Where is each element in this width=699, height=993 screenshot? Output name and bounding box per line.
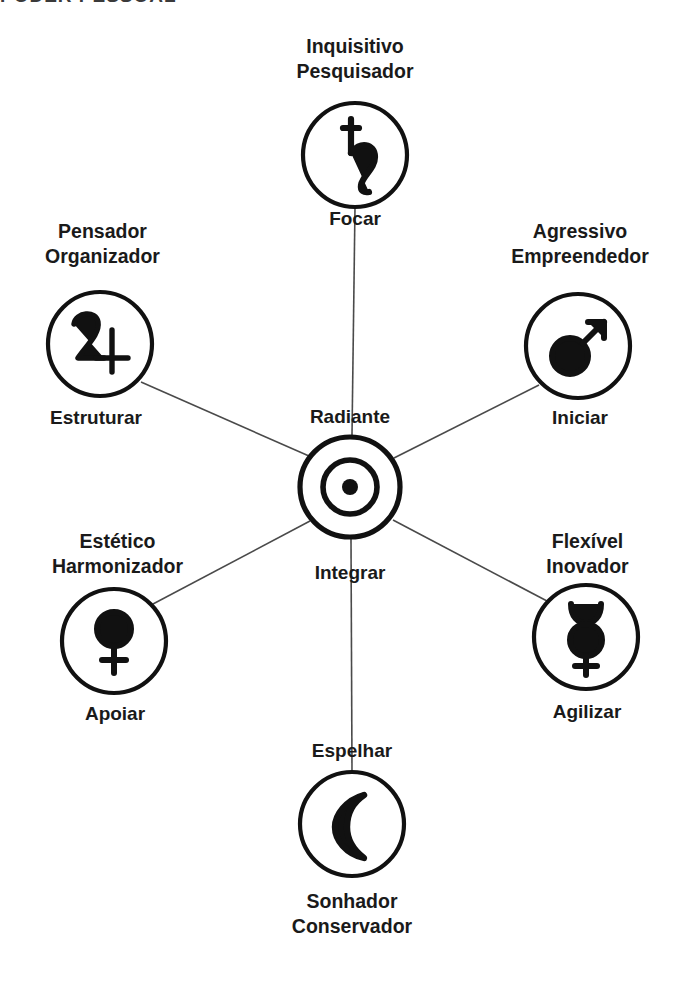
label-hub-radiante: Radiante <box>280 404 420 429</box>
label-marte-verb: Iniciar <box>510 405 650 430</box>
label-jupiter-archetype: Pensador Organizador <box>10 219 195 269</box>
label-mercurio-line2: Inovador <box>495 554 680 579</box>
node-mercurio[interactable] <box>534 585 638 689</box>
diagram-page: PODER PESSOAL <box>0 0 699 993</box>
spoke-to-saturno <box>352 207 355 435</box>
label-mercurio-archetype: Flexível Inovador <box>495 529 680 579</box>
label-saturno-line1: Inquisitivo <box>255 34 455 59</box>
label-lua-archetype: Sonhador Conservador <box>252 889 452 939</box>
node-jupiter-circle <box>48 292 152 396</box>
label-marte-line1: Agressivo <box>470 219 690 244</box>
label-venus-verb: Apoiar <box>45 701 185 726</box>
node-venus[interactable] <box>62 589 166 693</box>
hub-center-dot <box>342 479 358 495</box>
label-venus-line1: Estético <box>20 529 215 554</box>
label-jupiter-verb: Estruturar <box>6 405 186 430</box>
label-saturno-archetype: Inquisitivo Pesquisador <box>255 34 455 84</box>
radial-diagram-canvas <box>0 0 699 993</box>
node-jupiter[interactable] <box>48 292 152 396</box>
label-lua-verb: Espelhar <box>282 738 422 763</box>
label-saturno-verb: Focar <box>285 206 425 231</box>
label-venus-archetype: Estético Harmonizador <box>20 529 215 579</box>
mercury-icon <box>570 604 602 675</box>
label-marte-line2: Empreendedor <box>470 244 690 269</box>
label-lua-line1: Sonhador <box>252 889 452 914</box>
node-lua-circle <box>300 772 404 876</box>
label-mercurio-verb: Agilizar <box>517 699 657 724</box>
label-lua-line2: Conservador <box>252 914 452 939</box>
node-marte[interactable] <box>526 294 630 398</box>
label-hub-integrar: Integrar <box>280 560 420 585</box>
label-venus-line2: Harmonizador <box>20 554 215 579</box>
label-jupiter-line2: Organizador <box>10 244 195 269</box>
node-saturno[interactable] <box>303 103 407 207</box>
label-marte-archetype: Agressivo Empreendedor <box>470 219 690 269</box>
node-sol-hub[interactable] <box>300 437 400 537</box>
node-lua[interactable] <box>300 772 404 876</box>
label-saturno-line2: Pesquisador <box>255 59 455 84</box>
label-jupiter-line1: Pensador <box>10 219 195 244</box>
label-mercurio-line1: Flexível <box>495 529 680 554</box>
